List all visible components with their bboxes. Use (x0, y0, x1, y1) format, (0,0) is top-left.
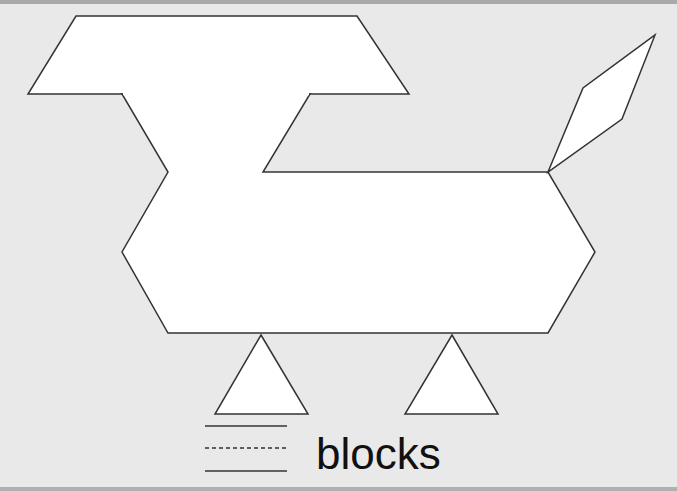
pattern-block-figure (0, 0, 677, 491)
head-trapezoid (28, 16, 409, 94)
tail-rhombus (548, 35, 655, 172)
body-shape (122, 94, 595, 333)
word-label: blocks (316, 432, 441, 476)
front-leg-triangle (215, 335, 308, 414)
back-leg-triangle (405, 335, 498, 414)
bottom-border (0, 487, 677, 491)
